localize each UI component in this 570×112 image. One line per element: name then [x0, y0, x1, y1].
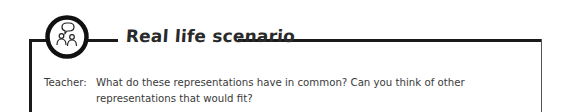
speaker-label: Teacher:	[44, 75, 96, 91]
dialogue-text: What do these representations have in co…	[96, 75, 536, 107]
people-talking-icon	[45, 15, 89, 59]
section-title: Real life scenario	[125, 26, 296, 46]
frame-top-border-middle	[86, 39, 118, 42]
frame-left-border	[29, 39, 32, 112]
frame-right-border	[541, 39, 542, 112]
